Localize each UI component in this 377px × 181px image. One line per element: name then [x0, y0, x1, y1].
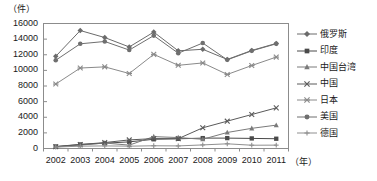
- legend-label: 中国: [320, 79, 338, 88]
- series-5: [53, 52, 279, 86]
- data-point-marker: [305, 114, 310, 119]
- legend-label: 日本: [320, 96, 338, 105]
- y-tick-label: 6000: [2, 96, 38, 106]
- data-point-marker: [225, 136, 229, 140]
- y-tick-label: 14000: [2, 33, 38, 43]
- data-point-marker: [77, 66, 83, 71]
- square-marker-icon: [296, 44, 318, 58]
- data-point-marker: [274, 137, 278, 141]
- legend-label: 美国: [320, 112, 338, 121]
- data-point-marker: [249, 63, 255, 68]
- series-line: [56, 108, 277, 147]
- y-tick-label: 12000: [2, 49, 38, 59]
- series-2: [54, 136, 279, 149]
- legend-item-2[interactable]: 印度: [296, 43, 374, 60]
- data-point-marker: [304, 131, 309, 136]
- data-point-marker: [274, 42, 279, 47]
- data-point-marker: [225, 58, 230, 63]
- y-axis-unit-label: （件）: [8, 2, 35, 15]
- data-point-marker: [274, 122, 279, 127]
- triangle-marker-icon: [296, 60, 318, 74]
- plus-marker-icon: [296, 126, 318, 140]
- legend-label: 印度: [320, 46, 338, 55]
- y-tick-label: 16000: [2, 18, 38, 28]
- data-point-marker: [200, 47, 206, 53]
- chart-legend: 俄罗斯印度中国台湾中国日本美国德国: [296, 26, 374, 142]
- series-6: [53, 33, 278, 62]
- diamond-marker-icon: [296, 27, 318, 41]
- x-axis-unit-label: （年）: [290, 155, 317, 168]
- data-point-marker: [273, 55, 279, 60]
- data-point-marker: [304, 31, 310, 37]
- cross-marker-icon: [296, 77, 318, 91]
- legend-label: 德国: [320, 129, 338, 138]
- data-point-marker: [151, 52, 157, 57]
- y-tick-label: 0: [2, 143, 38, 153]
- series-4: [53, 105, 278, 149]
- y-tick-label: 4000: [2, 111, 38, 121]
- data-point-marker: [151, 143, 156, 148]
- data-point-marker: [176, 51, 181, 56]
- data-point-marker: [53, 58, 58, 63]
- series-line: [56, 36, 277, 61]
- data-point-marker: [200, 41, 205, 46]
- y-tick-label: 2000: [2, 127, 38, 137]
- y-tick-label: 8000: [2, 80, 38, 90]
- data-point-marker: [127, 48, 132, 53]
- legend-item-3[interactable]: 中国台湾: [296, 59, 374, 76]
- circle-marker-icon: [296, 110, 318, 124]
- data-point-marker: [102, 39, 107, 44]
- data-point-marker: [250, 136, 254, 140]
- line-chart: （件） 160001400012000100008000600040002000…: [0, 0, 377, 181]
- data-point-marker: [224, 72, 230, 77]
- legend-item-5[interactable]: 日本: [296, 92, 374, 109]
- data-point-marker: [305, 48, 310, 53]
- legend-item-4[interactable]: 中国: [296, 76, 374, 93]
- data-point-marker: [249, 143, 254, 148]
- legend-item-7[interactable]: 德国: [296, 125, 374, 142]
- data-point-marker: [176, 144, 181, 149]
- legend-label: 俄罗斯: [320, 30, 347, 39]
- legend-label: 中国台湾: [320, 63, 356, 72]
- x-tick-label: 2011: [261, 155, 291, 165]
- data-point-marker: [200, 143, 205, 148]
- data-point-marker: [200, 61, 206, 66]
- data-point-marker: [126, 71, 132, 76]
- legend-item-6[interactable]: 美国: [296, 109, 374, 126]
- legend-item-1[interactable]: 俄罗斯: [296, 26, 374, 43]
- data-point-marker: [151, 33, 156, 38]
- series-line: [56, 54, 277, 84]
- data-point-marker: [249, 49, 254, 54]
- data-point-marker: [175, 63, 181, 68]
- asterisk-marker-icon: [296, 93, 318, 107]
- data-point-marker: [304, 98, 310, 103]
- data-point-marker: [225, 141, 230, 146]
- data-point-marker: [53, 82, 59, 87]
- data-point-marker: [102, 64, 108, 69]
- data-point-marker: [274, 143, 279, 148]
- y-tick-label: 10000: [2, 64, 38, 74]
- data-point-marker: [78, 42, 83, 47]
